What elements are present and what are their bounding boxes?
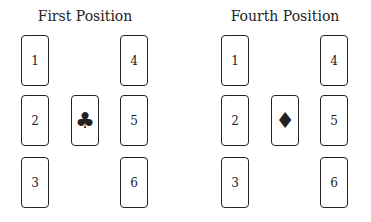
center-card-diamond: ♦ (271, 95, 299, 146)
card-6: 6 (320, 157, 348, 208)
card-5: 5 (320, 95, 348, 146)
card-number: 2 (31, 114, 39, 128)
card-5: 5 (120, 95, 148, 146)
card-number: 4 (330, 54, 338, 68)
center-card-club: ♣ (71, 95, 99, 146)
card-2: 2 (221, 95, 249, 146)
card-number: 1 (231, 54, 239, 68)
panel-title-first: First Position (10, 8, 160, 24)
club-icon: ♣ (75, 110, 95, 132)
card-3: 3 (21, 157, 49, 208)
card-2: 2 (21, 95, 49, 146)
card-number: 6 (330, 176, 338, 190)
card-number: 5 (330, 114, 338, 128)
card-number: 6 (130, 176, 138, 190)
card-4: 4 (120, 35, 148, 86)
panel-title-fourth: Fourth Position (210, 8, 360, 24)
card-6: 6 (120, 157, 148, 208)
card-3: 3 (221, 157, 249, 208)
card-number: 4 (130, 54, 138, 68)
card-position-diagram: First Position 1 2 3 4 5 6 ♣ Fourth Posi… (0, 0, 371, 222)
card-number: 2 (231, 114, 239, 128)
card-number: 5 (130, 114, 138, 128)
card-4: 4 (320, 35, 348, 86)
card-number: 3 (231, 176, 239, 190)
card-number: 3 (31, 176, 39, 190)
diamond-icon: ♦ (275, 110, 295, 132)
card-1: 1 (21, 35, 49, 86)
card-1: 1 (221, 35, 249, 86)
card-number: 1 (31, 54, 39, 68)
